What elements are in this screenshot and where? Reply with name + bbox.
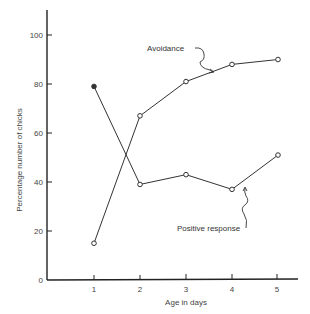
y-ticks (47, 35, 52, 231)
positive-response-arrow (242, 188, 248, 228)
data-point-marker (276, 57, 281, 62)
avoidance-annotation: Avoidance (147, 44, 185, 53)
positive-response-annotation: Positive response (177, 224, 241, 233)
y-tick-label-60: 60 (34, 129, 43, 138)
line-chart: 100 80 60 40 20 0 1 2 3 4 5 Age in days … (0, 0, 310, 314)
x-axis-title: Age in days (165, 298, 207, 307)
avoidance-arrow (195, 48, 213, 72)
x-tick-label-4: 4 (230, 285, 235, 294)
series-layer (92, 57, 281, 245)
y-tick-label-100: 100 (30, 31, 44, 40)
data-point-marker (184, 172, 189, 177)
data-point-marker (92, 84, 97, 89)
data-point-marker (138, 114, 143, 119)
y-axis-title: Percentage number of chicks (15, 108, 24, 212)
x-tick-label-2: 2 (138, 285, 143, 294)
series-line-avoidance (94, 60, 278, 244)
x-axis (47, 279, 298, 280)
x-tick-label-1: 1 (92, 285, 97, 294)
x-tick-label-5: 5 (275, 285, 280, 294)
data-point-marker (230, 62, 235, 67)
y-tick-label-0: 0 (39, 276, 44, 285)
data-point-marker (92, 241, 97, 246)
data-point-marker (276, 153, 281, 158)
data-point-marker (138, 182, 143, 187)
y-tick-label-80: 80 (34, 80, 43, 89)
data-point-marker (230, 187, 235, 192)
data-point-marker (184, 79, 189, 84)
y-tick-label-40: 40 (34, 178, 43, 187)
y-tick-label-20: 20 (34, 227, 43, 236)
x-tick-label-3: 3 (184, 285, 189, 294)
